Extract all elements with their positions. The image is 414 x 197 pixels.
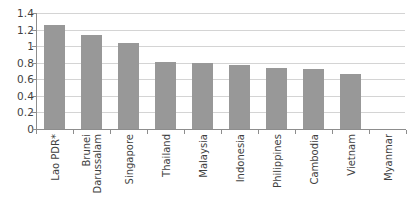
x-axis-tick-mark — [406, 130, 407, 134]
bar — [118, 43, 139, 129]
y-axis-tick-mark — [32, 30, 36, 31]
x-axis-category-label-line: Singapore — [124, 134, 135, 197]
x-axis-tick-mark — [184, 130, 185, 134]
x-axis-category-label: Indonesia — [235, 134, 249, 197]
x-axis-tick-mark — [73, 130, 74, 134]
x-axis-category-label-line: Vietnam — [346, 134, 357, 197]
bar — [81, 35, 102, 129]
x-axis-category-label: Thailand — [161, 134, 175, 197]
x-axis-category-label: Vietnam — [346, 134, 360, 197]
bar — [229, 65, 250, 129]
x-axis-category-label: Myanmar — [383, 134, 397, 197]
x-axis-tick-mark — [36, 130, 37, 134]
x-axis-tick-mark — [332, 130, 333, 134]
y-axis-tick-labels: 1.41.210.80.60.40.20 — [0, 0, 34, 140]
bar-chart: 1.41.210.80.60.40.20 Lao PDR*BruneiDarus… — [0, 0, 414, 197]
y-axis-tick-label: 1.4 — [0, 8, 34, 19]
bar — [303, 69, 324, 129]
y-axis-tick-mark — [32, 63, 36, 64]
y-axis-tick-mark — [32, 112, 36, 113]
x-axis-tick-mark — [110, 130, 111, 134]
y-axis-tick-label: 0.4 — [0, 91, 34, 102]
y-axis-tick-mark — [32, 96, 36, 97]
y-axis-tick-mark — [32, 79, 36, 80]
y-axis-tick-label: 0.8 — [0, 58, 34, 69]
x-axis-category-label: Philippines — [272, 134, 286, 197]
x-axis-tick-mark — [221, 130, 222, 134]
x-axis-category-label-line: Malaysia — [198, 134, 209, 197]
x-axis-category-label-line: Darussalam — [92, 134, 103, 197]
x-axis-category-label: Malaysia — [198, 134, 212, 197]
bar — [155, 62, 176, 129]
x-axis-category-labels: Lao PDR*BruneiDarussalamSingaporeThailan… — [36, 134, 406, 197]
bar — [266, 68, 287, 129]
x-axis-category-label: Cambodia — [309, 134, 323, 197]
x-axis-tick-mark — [258, 130, 259, 134]
y-axis-tick-label: 0.2 — [0, 107, 34, 118]
bar — [44, 25, 65, 129]
x-axis-category-label: Singapore — [124, 134, 138, 197]
x-axis-category-label-line: Myanmar — [383, 134, 394, 197]
x-axis-tick-mark — [369, 130, 370, 134]
y-axis-tick-label: 1.2 — [0, 25, 34, 36]
x-axis-category-label: BruneiDarussalam — [81, 134, 107, 197]
x-axis-category-label-line: Thailand — [161, 134, 172, 197]
x-axis-tick-mark — [147, 130, 148, 134]
y-axis-tick-mark — [32, 46, 36, 47]
x-axis-category-label-line: Philippines — [272, 134, 283, 197]
y-axis-tick-mark — [32, 13, 36, 14]
bars-layer — [36, 13, 406, 129]
x-axis-category-label-line: Cambodia — [309, 134, 320, 197]
bar — [340, 74, 361, 130]
x-axis-category-label: Lao PDR* — [50, 134, 64, 197]
x-axis-category-label-line: Brunei — [81, 134, 92, 197]
y-axis-tick-label: 0.6 — [0, 74, 34, 85]
y-axis-tick-label: 0 — [0, 124, 34, 135]
bar — [192, 63, 213, 129]
x-axis-category-label-line: Lao PDR* — [50, 134, 61, 197]
y-axis-tick-label: 1 — [0, 41, 34, 52]
x-axis-category-label-line: Indonesia — [235, 134, 246, 197]
x-axis-tick-mark — [295, 130, 296, 134]
